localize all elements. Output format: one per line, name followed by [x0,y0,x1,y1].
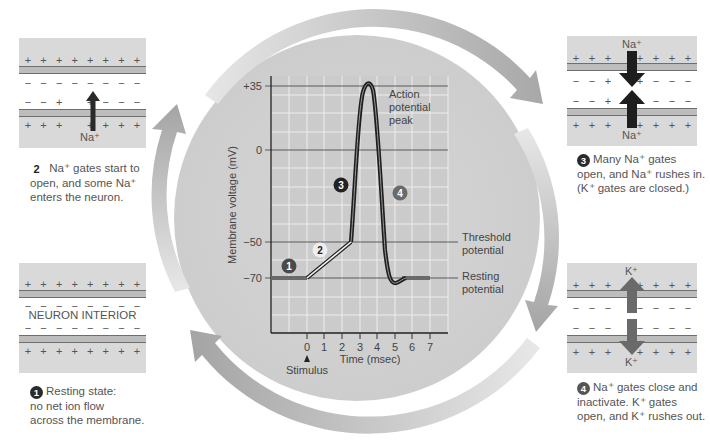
svg-text:potential: potential [462,283,504,295]
charge-row: −−++−−− [19,97,146,108]
svg-text:potential: potential [389,101,431,113]
x-tick-7: 7 [427,341,433,353]
svg-text:3: 3 [338,180,344,191]
charge-row: ++++++++ [19,346,146,357]
svg-text:2: 2 [317,245,323,256]
na-inward-arrow-top-icon [619,51,645,87]
step-number-4: 4 [577,382,590,395]
na-influx-arrow-icon [86,91,100,131]
k-outward-arrow-bottom-icon [619,319,645,355]
caption-panel-4: 4Na⁺ gates close and inactivate. K⁺ gate… [577,380,705,423]
membrane-band [19,335,146,343]
step-number-2: 2 [30,163,43,176]
x-tick-6: 6 [409,341,415,353]
svg-text:Action: Action [389,88,420,100]
k-outward-arrow-top-icon [619,277,645,313]
phase-marker-1: 1 [282,259,297,274]
step-number-3: 3 [577,154,590,167]
ion-label-na-top: Na⁺ [622,38,642,51]
y-tick-35: +35 [243,80,262,92]
y-axis-label: Membrane voltage (mV) [226,146,238,264]
membrane-band [19,109,146,117]
charge-row: −−−−−−−− [19,78,146,89]
phase-marker-2: 2 [313,243,328,258]
caption-panel-1: 1Resting state: no net ion flow across t… [30,384,144,427]
x-tick-1: 1 [321,341,327,353]
step-number-1: 1 [30,386,43,399]
ion-label-k-bottom: K⁺ [625,356,638,369]
x-tick-0: 0 [304,341,310,353]
stimulus-label: Stimulus [286,364,329,376]
svg-text:Threshold: Threshold [462,231,511,243]
x-tick-3: 3 [357,341,363,353]
charge-row: +++++++ [19,120,146,131]
membrane-panel-1: ++++++++ −−−−−−−− NEURON INTERIOR −−−−−−… [19,263,146,373]
svg-text:potential: potential [462,244,504,256]
svg-text:4: 4 [397,188,403,199]
charge-row: −−−−−−−− [19,323,146,334]
membrane-band [19,66,146,74]
y-tick-m50: −50 [243,236,262,248]
resting-annotation: Resting potential [462,270,504,295]
charge-row: ++++++++ [19,279,146,290]
ion-label-na: Na⁺ [80,131,100,144]
phase-marker-3: 3 [334,178,349,193]
phase-marker-4: 4 [393,186,408,201]
ion-label-na-bottom: Na⁺ [622,129,642,142]
svg-text:Resting: Resting [462,270,499,282]
x-tick-2: 2 [339,341,345,353]
x-axis-label: Time (msec) [340,353,401,365]
svg-text:1: 1 [286,261,292,272]
y-tick-0: 0 [256,144,262,156]
y-tick-m70: −70 [243,272,262,284]
charge-row: ++++++++ [19,55,146,66]
svg-text:peak: peak [389,114,413,126]
caption-panel-3: 3Many Na⁺ gates open, and Na⁺ rushes in.… [577,152,705,195]
membrane-panel-2: ++++++++ −−−−−−−− −−++−−− +++++++ Na⁺ [19,38,146,148]
membrane-panel-3: Na⁺ +++++++ −−++−−− −−++−−− +++++++ Na⁺ [567,36,697,146]
membrane-panel-4: K⁺ +++++++ −−−−−−− −−−−−−− +++++++ K⁺ [567,263,697,373]
membrane-band [19,290,146,298]
na-inward-arrow-bottom-icon [619,90,645,128]
threshold-annotation: Threshold potential [462,231,511,256]
x-tick-4: 4 [374,341,380,353]
caption-panel-2: 2 Na⁺ gates start to open, and some Na⁺ … [30,161,140,204]
neuron-interior-label: NEURON INTERIOR [19,309,146,321]
x-tick-5: 5 [392,341,398,353]
